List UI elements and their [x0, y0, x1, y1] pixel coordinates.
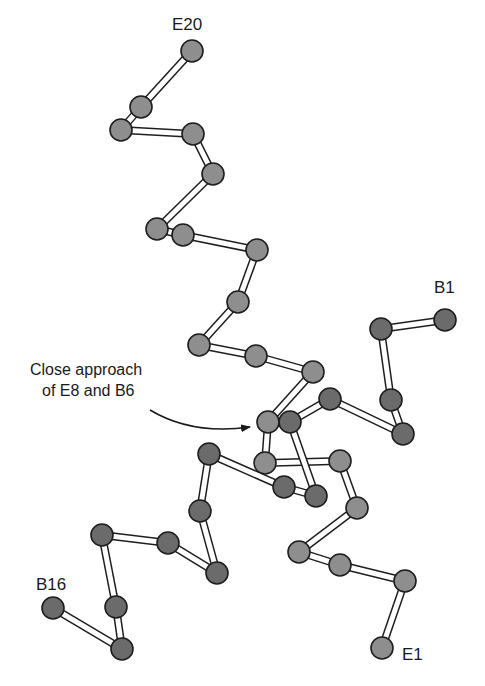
atom-b12 — [157, 532, 179, 554]
atom-e17 — [182, 123, 204, 145]
atom-b2 — [370, 318, 392, 340]
label-e1: E1 — [402, 645, 423, 664]
label-b1: B1 — [434, 278, 455, 297]
atom-e19 — [130, 96, 152, 118]
atom-b5 — [319, 388, 341, 410]
atom-b16 — [42, 597, 64, 619]
atom-e8 — [257, 411, 279, 433]
chain-e — [110, 40, 416, 659]
atom-e6 — [329, 450, 351, 472]
atom-b10 — [189, 500, 211, 522]
atom-b7 — [305, 485, 327, 507]
atom-b9 — [198, 443, 220, 465]
atom-e14 — [172, 224, 194, 246]
annotation-line-1: Close approach — [30, 361, 142, 378]
atom-e10 — [245, 345, 267, 367]
label-e20: E20 — [172, 15, 202, 34]
label-b16: B16 — [36, 575, 66, 594]
atom-e16 — [202, 163, 224, 185]
atom-e3 — [329, 554, 351, 576]
atom-e13 — [246, 239, 268, 261]
atom-e9 — [302, 361, 324, 383]
atom-b15 — [111, 638, 133, 660]
atom-e11 — [188, 334, 210, 356]
atom-e18 — [110, 119, 132, 141]
atom-b3 — [380, 389, 402, 411]
atom-b11 — [206, 562, 228, 584]
atom-b4 — [392, 423, 414, 445]
atom-b13 — [91, 524, 113, 546]
atom-e1 — [371, 637, 393, 659]
atom-e20 — [181, 40, 203, 62]
annotation-line-2: of E8 and B6 — [42, 382, 135, 399]
atom-e4 — [288, 541, 310, 563]
annotation-arrow — [150, 410, 250, 429]
atom-e7 — [254, 452, 276, 474]
atom-e15 — [146, 218, 168, 240]
atom-b14 — [105, 596, 127, 618]
protein-backbone-diagram: E20 E1 B1 B16 Close approach of E8 and B… — [0, 0, 485, 686]
atom-b8 — [273, 476, 295, 498]
atom-e12 — [227, 291, 249, 313]
atom-e5 — [346, 497, 368, 519]
atom-e2 — [394, 570, 416, 592]
atom-b1 — [434, 309, 456, 331]
atom-b6 — [279, 411, 301, 433]
